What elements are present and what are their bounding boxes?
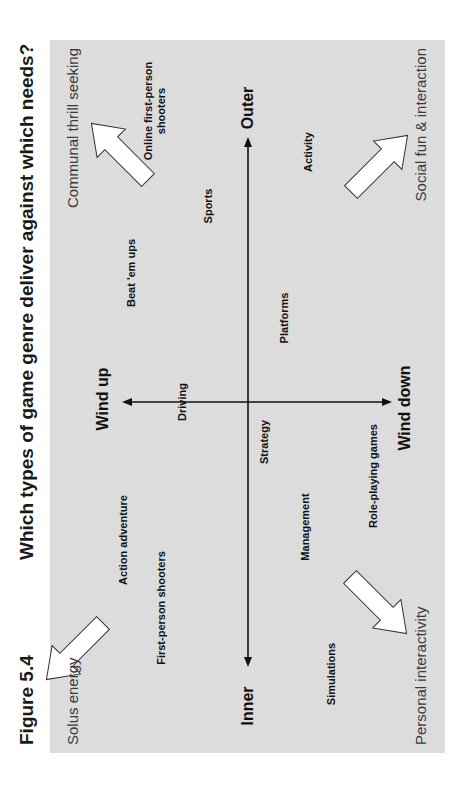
arrow-social-fun-icon [337,121,422,206]
genre-driving: Driving [176,383,189,421]
corner-label-personal-interactivity: Personal interactivity [412,607,429,745]
corner-label-communal-thrill: Communal thrill seeking [64,48,81,208]
axis-label-outer: Outer [239,87,257,130]
corner-label-solus-energy: Solus energy [64,657,81,745]
arrow-personal-interactivity-icon [336,563,421,648]
genre-beat-em-ups: Beat 'em ups [125,239,138,307]
axis-label-inner: Inner [239,686,257,725]
genre-role-playing-games: Role-playing games [367,424,380,528]
genre-activity: Activity [302,132,315,172]
arrowhead-down-icon [382,398,392,406]
genre-first-person-shooters: First-person shooters [155,551,168,665]
axis-label-wind-up: Wind up [94,368,112,431]
axis-label-wind-down: Wind down [396,365,414,450]
genre-action-adventure: Action adventure [117,495,130,585]
genre-strategy: Strategy [258,420,271,464]
arrowhead-right-icon [244,137,252,147]
genre-simulations: Simulations [325,643,338,705]
vertical-axis [122,398,392,406]
figure-rotated: Figure 5.4 Which types of game genre del… [0,0,470,785]
genre-platforms: Platforms [278,293,291,344]
corner-label-social-fun: Social fun & interaction [412,48,429,201]
genre-management: Management [299,493,312,560]
genre-online-fps: Online first-person shooters [142,62,168,160]
arrowhead-up-icon [122,398,132,406]
arrowhead-left-icon [244,657,252,667]
genre-sports: Sports [202,189,215,224]
